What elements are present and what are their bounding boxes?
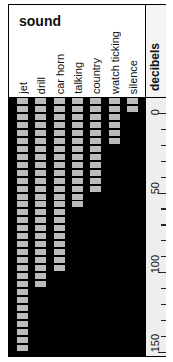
bar-block xyxy=(35,154,46,160)
bar-block xyxy=(54,186,65,192)
axis-tick xyxy=(161,224,166,225)
bar-block xyxy=(54,217,65,223)
bar-block xyxy=(35,225,46,231)
bar-block xyxy=(54,146,65,152)
axis-tick xyxy=(161,288,166,289)
bar-block xyxy=(90,186,101,192)
chart-frame: sound jetdrillcar horntalkingcountrywatc… xyxy=(8,4,166,357)
chart-title: sound xyxy=(19,13,61,29)
bar-block xyxy=(17,249,28,255)
bar-block xyxy=(72,154,83,160)
axis-tick xyxy=(161,256,166,257)
bar-block xyxy=(54,130,65,136)
category-label: car horn xyxy=(54,54,66,94)
bar-block xyxy=(90,114,101,120)
bar-block xyxy=(17,201,28,207)
bar-block xyxy=(127,106,138,112)
bar-block xyxy=(17,273,28,279)
bar-block xyxy=(72,162,83,168)
bar-block xyxy=(72,186,83,192)
bar-block xyxy=(90,98,101,104)
bar-block xyxy=(17,305,28,311)
axis-tick-label: 150 xyxy=(149,334,161,352)
axis-header: decibels xyxy=(146,5,166,98)
bar-block xyxy=(90,154,101,160)
bar-block xyxy=(54,265,65,271)
bar-block xyxy=(54,114,65,120)
bar-block xyxy=(54,122,65,128)
bar-block xyxy=(35,98,46,104)
bar-block xyxy=(17,345,28,351)
bar-block xyxy=(35,209,46,215)
bar-block xyxy=(109,122,120,128)
category-label: jet xyxy=(17,82,29,94)
bar-block xyxy=(72,98,83,104)
bar-block xyxy=(35,257,46,263)
bar-block xyxy=(17,146,28,152)
bar-block xyxy=(35,130,46,136)
bar-block xyxy=(127,98,138,104)
bar-block xyxy=(35,122,46,128)
bar-block xyxy=(17,114,28,120)
bar-block xyxy=(90,162,101,168)
bar-block xyxy=(17,297,28,303)
bar-block xyxy=(35,178,46,184)
bar-block xyxy=(72,114,83,120)
bar-block xyxy=(17,233,28,239)
bar-block xyxy=(109,114,120,120)
category-label: silence xyxy=(127,60,139,94)
axis-tick xyxy=(161,208,166,209)
bar-block xyxy=(90,106,101,112)
bar-block xyxy=(17,170,28,176)
bar-block xyxy=(54,233,65,239)
bar-block xyxy=(17,321,28,327)
axis-tick-label: 50 xyxy=(149,182,161,194)
bar-block xyxy=(17,106,28,112)
bar-block xyxy=(17,186,28,192)
y-axis: decibels 050100150 xyxy=(145,5,166,356)
bar-block xyxy=(35,233,46,239)
bar-block xyxy=(109,106,120,112)
bar-block xyxy=(17,122,28,128)
bar-block xyxy=(35,170,46,176)
bar-block xyxy=(17,217,28,223)
bar-block xyxy=(17,225,28,231)
bar-block xyxy=(35,201,46,207)
bar-block xyxy=(90,146,101,152)
bar-block xyxy=(17,178,28,184)
bar-block xyxy=(17,162,28,168)
bar-block xyxy=(72,170,83,176)
bar-block xyxy=(35,146,46,152)
axis-tick-label: 100 xyxy=(149,255,161,273)
bar-block xyxy=(35,162,46,168)
axis-tick xyxy=(161,320,166,321)
axis-tick xyxy=(161,129,166,130)
bar-block xyxy=(90,138,101,144)
bar-block xyxy=(90,170,101,176)
bar-block xyxy=(17,138,28,144)
bar-block xyxy=(109,98,120,104)
bar-block xyxy=(17,289,28,295)
chart-header: sound jetdrillcar horntalkingcountrywatc… xyxy=(9,5,145,98)
bar-block xyxy=(109,130,120,136)
bar-block xyxy=(17,209,28,215)
bar-block xyxy=(90,178,101,184)
bar-block xyxy=(35,273,46,279)
bar-block xyxy=(72,201,83,207)
bar-block xyxy=(35,194,46,200)
bar-block xyxy=(35,186,46,192)
bar-block xyxy=(72,106,83,112)
axis-tick xyxy=(161,336,166,337)
bar-block xyxy=(17,337,28,343)
bar-block xyxy=(35,281,46,287)
bar-block xyxy=(54,241,65,247)
bar-block xyxy=(17,241,28,247)
axis-tick xyxy=(161,304,166,305)
bar-block xyxy=(54,209,65,215)
bar-block xyxy=(35,249,46,255)
bar-block xyxy=(17,154,28,160)
bar-block xyxy=(72,130,83,136)
bar-block xyxy=(35,265,46,271)
bar-block xyxy=(54,138,65,144)
axis-title: decibels xyxy=(148,43,162,91)
